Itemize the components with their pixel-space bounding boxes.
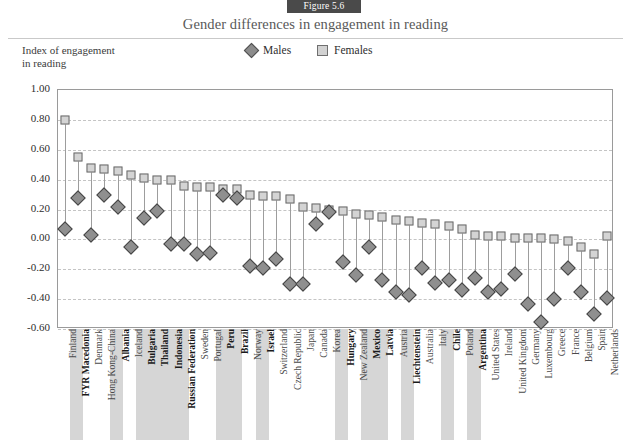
data-point-male[interactable] [255,260,271,276]
data-point-male[interactable] [480,284,496,300]
y-axis-tick: -0.60 [0,321,50,333]
data-point-female[interactable] [404,217,413,226]
data-point-female[interactable] [590,250,599,259]
data-point-female[interactable] [418,218,427,227]
data-point-male[interactable] [388,284,404,300]
data-point-female[interactable] [523,233,532,242]
data-point-male[interactable] [97,187,113,203]
data-point-female[interactable] [259,192,268,201]
legend-label-males: Males [263,44,291,56]
connector-stem [131,175,132,247]
data-point-female[interactable] [113,166,122,175]
data-point-female[interactable] [193,183,202,192]
data-point-female[interactable] [153,175,162,184]
data-point-female[interactable] [457,224,466,233]
data-point-female[interactable] [285,195,294,204]
y-axis-tick: 0.00 [0,231,50,243]
category-label: United Kingdom [518,329,527,394]
data-point-female[interactable] [537,233,546,242]
data-point-female[interactable] [391,215,400,224]
y-axis-tick: 0.80 [0,112,50,124]
data-point-male[interactable] [361,239,377,255]
data-point-male[interactable] [441,272,457,288]
data-point-female[interactable] [510,233,519,242]
data-point-male[interactable] [494,281,510,297]
data-point-male[interactable] [189,247,205,263]
data-point-female[interactable] [272,192,281,201]
data-point-male[interactable] [375,272,391,288]
y-axis-tick: 0.60 [0,142,50,154]
connector-stem [184,186,185,244]
connector-stem [409,221,410,294]
category-label: Australia [425,329,434,364]
legend: Males Females [246,44,372,56]
data-point-male[interactable] [308,217,324,233]
connector-stem [171,180,172,244]
figure-root: Figure 5.6 Gender differences in engagem… [0,0,631,440]
data-point-female[interactable] [431,220,440,229]
data-point-female[interactable] [166,175,175,184]
data-point-male[interactable] [414,260,430,276]
data-point-female[interactable] [60,115,69,124]
data-point-female[interactable] [603,232,612,241]
data-point-female[interactable] [312,204,321,213]
category-label: Indonesia [174,329,183,369]
gridline [58,150,612,151]
category-label: Chile [452,329,461,351]
data-point-male[interactable] [70,190,86,206]
data-point-male[interactable] [586,306,602,322]
connector-stem [435,224,436,282]
data-point-male[interactable] [533,314,549,330]
category-label: Canada [319,329,328,358]
category-axis-labels: FinlandFYR MacedoniaDenmarkHong Kong-Chi… [57,329,613,440]
data-point-male[interactable] [573,284,589,300]
data-point-female[interactable] [126,171,135,180]
data-point-male[interactable] [560,260,576,276]
data-point-male[interactable] [335,254,351,270]
data-point-male[interactable] [110,199,126,215]
data-point-male[interactable] [136,211,152,227]
data-point-female[interactable] [484,232,493,241]
data-point-female[interactable] [140,174,149,183]
data-point-female[interactable] [497,232,506,241]
connector-stem [263,196,264,268]
title-divider [8,38,623,39]
data-point-male[interactable] [547,291,563,307]
category-label: Ireland [504,329,513,356]
data-point-male[interactable] [467,270,483,286]
connector-stem [488,236,489,291]
data-point-female[interactable] [378,212,387,221]
data-point-female[interactable] [563,236,572,245]
data-point-female[interactable] [351,209,360,218]
data-point-female[interactable] [576,242,585,251]
data-point-female[interactable] [471,230,480,239]
data-point-male[interactable] [123,239,139,255]
data-point-female[interactable] [365,211,374,220]
data-point-female[interactable] [298,202,307,211]
y-axis-tick: -0.40 [0,291,50,303]
data-point-male[interactable] [428,275,444,291]
data-point-female[interactable] [73,153,82,162]
data-point-male[interactable] [202,245,218,261]
data-point-female[interactable] [179,181,188,190]
data-point-male[interactable] [295,276,311,292]
connector-stem [197,187,198,254]
square-icon [317,45,328,56]
data-point-male[interactable] [454,282,470,298]
data-point-male[interactable] [600,290,616,306]
data-point-male[interactable] [150,203,166,219]
data-point-female[interactable] [245,190,254,199]
connector-stem [501,236,502,288]
data-point-male[interactable] [57,221,73,237]
category-label: Netherlands [610,329,619,375]
data-point-female[interactable] [338,206,347,215]
data-point-female[interactable] [87,163,96,172]
data-point-male[interactable] [269,251,285,267]
legend-item-females: Females [317,44,372,56]
data-point-female[interactable] [206,183,215,192]
data-point-female[interactable] [100,165,109,174]
category-label: Korea [332,329,341,352]
data-point-female[interactable] [550,235,559,244]
data-point-female[interactable] [444,221,453,230]
category-label: Denmark [94,329,103,365]
